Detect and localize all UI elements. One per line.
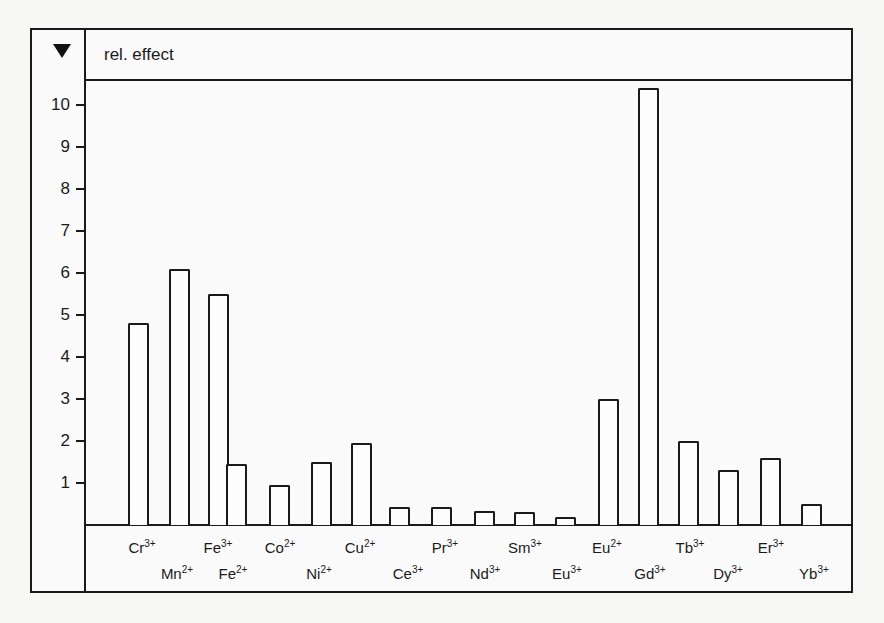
header-divider	[85, 79, 853, 81]
x-tick-label: Gd3+	[634, 564, 665, 582]
x-tick-label: Pr3+	[432, 538, 458, 556]
bar	[351, 443, 372, 525]
bar	[638, 88, 659, 525]
bar	[801, 504, 822, 525]
y-tick	[76, 146, 86, 148]
x-tick-label: Eu3+	[552, 564, 582, 582]
x-tick-label: Sm3+	[508, 538, 542, 556]
x-tick-label: Ce3+	[393, 564, 424, 582]
y-tick-label: 7	[40, 221, 70, 241]
x-tick-label: Cu2+	[345, 538, 376, 556]
y-tick	[76, 356, 86, 358]
y-tick-label: 6	[40, 263, 70, 283]
x-tick-label: Fe2+	[219, 564, 248, 582]
bar	[474, 511, 495, 525]
y-tick-label: 5	[40, 305, 70, 325]
x-tick-label: Eu2+	[592, 538, 622, 556]
bar	[226, 464, 247, 525]
y-tick	[76, 230, 86, 232]
x-tick-label: Mn2+	[161, 564, 193, 582]
bar	[128, 323, 149, 525]
y-tick	[76, 482, 86, 484]
y-tick	[76, 272, 86, 274]
y-tick-label: 1	[40, 473, 70, 493]
x-tick-label: Er3+	[758, 538, 784, 556]
x-tick-label: Ni2+	[306, 564, 332, 582]
bar	[514, 512, 535, 525]
bar	[598, 399, 619, 525]
bar	[678, 441, 699, 525]
y-tick	[76, 188, 86, 190]
bar	[718, 470, 739, 525]
x-tick-label: Tb3+	[676, 538, 705, 556]
bar	[311, 462, 332, 525]
y-tick-label: 9	[40, 137, 70, 157]
chart-title: rel. effect	[104, 45, 174, 65]
x-tick-label: Yb3+	[799, 564, 829, 582]
bar	[389, 507, 410, 525]
y-tick	[76, 440, 86, 442]
y-tick-label: 2	[40, 431, 70, 451]
y-tick-label: 10	[40, 95, 70, 115]
y-tick-label: 3	[40, 389, 70, 409]
x-tick-label: Cr3+	[128, 538, 155, 556]
y-tick-label: 4	[40, 347, 70, 367]
y-tick	[76, 104, 86, 106]
bar	[431, 507, 452, 525]
down-triangle-icon	[53, 44, 71, 58]
y-tick	[76, 314, 86, 316]
x-tick-label: Co2+	[265, 538, 296, 556]
bar	[555, 517, 576, 525]
y-tick-label: 8	[40, 179, 70, 199]
bar	[760, 458, 781, 525]
x-tick-label: Nd3+	[470, 564, 501, 582]
x-tick-label: Dy3+	[713, 564, 743, 582]
x-tick-label: Fe3+	[204, 538, 233, 556]
y-tick	[76, 398, 86, 400]
bar	[269, 485, 290, 525]
bar	[169, 269, 190, 525]
